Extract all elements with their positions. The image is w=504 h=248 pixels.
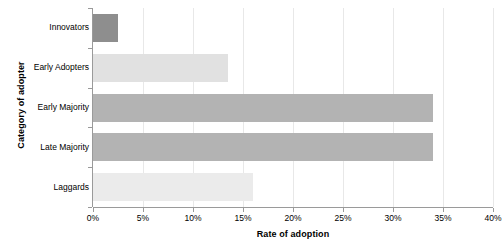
y-axis-tick	[88, 8, 92, 9]
bar	[93, 94, 433, 122]
bar	[93, 14, 118, 42]
x-axis-tick-label: 15%	[223, 213, 263, 223]
x-axis-tick-label: 10%	[173, 213, 213, 223]
x-axis-tick-label: 25%	[323, 213, 363, 223]
y-axis-tick-label: Early Adopters	[3, 62, 89, 72]
x-axis-tick	[343, 208, 344, 212]
x-axis-tick-label: 35%	[423, 213, 463, 223]
x-axis-tick	[93, 208, 94, 212]
bar	[93, 173, 253, 201]
y-axis-tick-label: Laggards	[3, 182, 89, 192]
x-axis-tick-label: 0%	[73, 213, 113, 223]
x-axis-tick-label: 30%	[373, 213, 413, 223]
gridline	[493, 8, 494, 207]
x-axis-tick	[493, 208, 494, 212]
x-axis-title: Rate of adoption	[93, 229, 493, 239]
x-axis-tick	[143, 208, 144, 212]
x-axis-tick	[443, 208, 444, 212]
y-axis-tick-label: Late Majority	[3, 142, 89, 152]
y-axis-tick-label: Innovators	[3, 22, 89, 32]
x-axis-tick	[293, 208, 294, 212]
y-axis-tick-label: Early Majority	[3, 102, 89, 112]
y-axis-tick-labels: Innovators Early Adopters Early Majority…	[0, 0, 89, 248]
y-axis-tick	[88, 167, 92, 168]
plot-area	[93, 8, 493, 207]
y-axis-tick	[88, 48, 92, 49]
x-axis-tick-label: 5%	[123, 213, 163, 223]
x-axis-tick	[243, 208, 244, 212]
x-axis-tick-label: 20%	[273, 213, 313, 223]
x-axis-tick-label: 40%	[473, 213, 504, 223]
y-axis-tick	[88, 88, 92, 89]
x-axis-tick	[193, 208, 194, 212]
y-axis-tick	[88, 207, 92, 208]
y-axis-line	[92, 8, 93, 207]
bar	[93, 54, 228, 82]
y-axis-tick	[88, 127, 92, 128]
gridline	[443, 8, 444, 207]
x-axis-tick	[393, 208, 394, 212]
bar	[93, 133, 433, 161]
bar-chart: Category of adopter Innovators Early Ado…	[0, 0, 504, 248]
